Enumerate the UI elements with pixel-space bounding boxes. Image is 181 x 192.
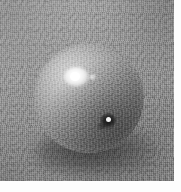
plate-margin-right xyxy=(174,0,181,192)
secondary-glint-icon xyxy=(89,74,96,80)
photograph-plate xyxy=(0,0,174,181)
plate-margin-bottom xyxy=(0,181,181,192)
specular-highlight-core xyxy=(70,72,80,81)
sphere-body xyxy=(34,43,144,153)
sphere-grain-texture xyxy=(34,43,144,153)
image-canvas xyxy=(0,0,181,192)
dark-blemish-speck xyxy=(106,117,111,122)
sphere xyxy=(34,43,144,153)
